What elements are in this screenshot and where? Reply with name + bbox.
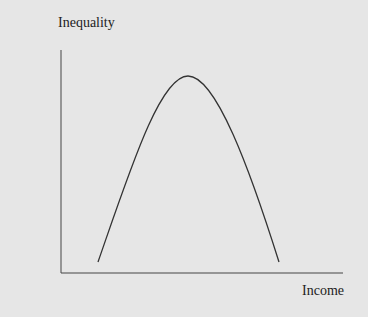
inverted-u-curve	[98, 76, 279, 262]
diagram-canvas	[0, 0, 368, 317]
